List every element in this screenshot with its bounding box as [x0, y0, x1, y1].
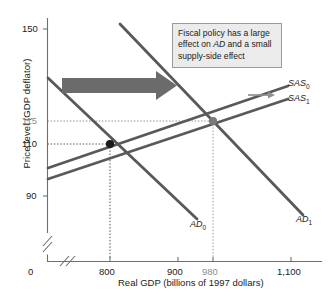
fiscal-policy-annotation: Fiscal policy has a large effect on AD a… [172, 23, 282, 68]
curve-ad0 [48, 78, 197, 219]
y-axis-break-marks [43, 236, 52, 252]
x-tick-label-900: 900 [167, 266, 183, 277]
curve-sas0 [48, 86, 288, 168]
y-tick-label-90: 90 [26, 190, 37, 201]
curve-label-sas1-sub: 1 [306, 98, 310, 105]
x-axis-label: Real GDP (billions of 1997 dollars) [118, 277, 264, 288]
initial-equilibrium-point [106, 140, 114, 148]
curve-label-ad0: AD0 [190, 219, 206, 231]
annotation-line-3: supply-side effect [178, 51, 245, 61]
annotation-line-2a: effect on [178, 39, 213, 49]
annotation-line-2b: and a small [225, 39, 271, 49]
y-axis-label: Price level (GDP deflator) [21, 24, 32, 204]
x-tick-label-0: 0 [28, 266, 33, 277]
x-tick-marks [110, 257, 291, 262]
y-tick-label-150: 150 [22, 23, 38, 34]
curve-label-ad0-sub: 0 [203, 224, 207, 231]
y-tick-label-110: 110 [22, 138, 37, 149]
curve-label-sas0: SAS0 [288, 78, 310, 90]
curve-label-ad1: AD1 [296, 214, 312, 226]
x-tick-label-1100: 1,100 [277, 266, 301, 277]
curve-label-sas0-text: SAS [288, 78, 306, 88]
curve-label-ad0-text: AD [190, 219, 203, 229]
curve-label-ad1-text: AD [296, 214, 309, 224]
curve-label-sas0-sub: 0 [306, 83, 310, 90]
y-tick-marks [43, 29, 48, 196]
ad-shift-arrow [62, 71, 177, 100]
chart-figure: Price level (GDP deflator) Real GDP (bil… [0, 0, 330, 299]
curve-label-ad1-sub: 1 [309, 219, 313, 226]
x-tick-label-800: 800 [99, 266, 115, 277]
annotation-term-ad: AD [213, 39, 225, 49]
y-tick-label-115: 115 [22, 115, 37, 126]
curve-label-sas1-text: SAS [288, 93, 306, 103]
x-tick-label-980: 980 [202, 266, 218, 277]
curve-label-sas1: SAS1 [288, 93, 310, 105]
annotation-line-1: Fiscal policy has a large [178, 28, 270, 38]
new-equilibrium-point [209, 117, 217, 125]
